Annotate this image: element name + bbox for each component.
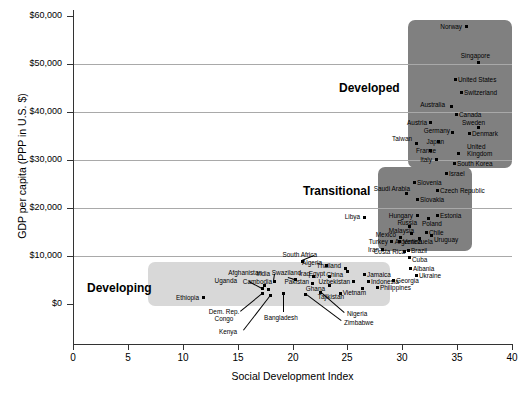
y-axis-title: GDP per capita (PPP in U.S. $): [16, 46, 28, 286]
point-label: Hungary: [389, 212, 413, 219]
point-label: Sweden: [462, 119, 485, 126]
point-label: Uganda: [215, 277, 237, 284]
x-tick-label: 10: [163, 352, 203, 363]
point-label: United States: [458, 76, 496, 83]
data-point: [269, 294, 272, 297]
data-point: [346, 270, 349, 273]
point-label: Denmark: [472, 130, 498, 137]
x-tick-label: 20: [273, 352, 313, 363]
point-label: Czech Republic: [440, 187, 485, 194]
point-label: Philippines: [380, 284, 411, 291]
data-point: [429, 121, 432, 124]
point-label: Canada: [459, 111, 481, 118]
y-tick-label-wrap: $30,000: [0, 155, 66, 164]
point-label: China: [326, 271, 343, 278]
point-label: Mexico: [376, 231, 396, 238]
gridline: [73, 64, 512, 65]
point-label: Taiwan: [392, 135, 412, 142]
data-point: [376, 286, 379, 289]
y-tick-label: $0: [0, 299, 66, 308]
data-point: [413, 181, 416, 184]
data-point: [454, 78, 457, 81]
data-point: [267, 288, 270, 291]
data-point: [367, 280, 370, 283]
y-tick-label-wrap: $40,000: [0, 107, 66, 116]
data-point: [363, 273, 366, 276]
point-label: South Africa: [283, 251, 317, 258]
point-label: Albania: [413, 265, 434, 272]
point-label: Tajikistan: [318, 293, 344, 300]
data-point: [435, 158, 438, 161]
x-tick-mark: [238, 344, 239, 350]
point-label: Russia: [397, 219, 417, 226]
x-tick-label: 15: [218, 352, 258, 363]
point-label: Brazil: [411, 247, 427, 254]
y-tick-mark: [67, 160, 74, 161]
data-point: [445, 172, 448, 175]
y-tick-label-wrap: $50,000: [0, 59, 66, 68]
point-label: Ethiopia: [176, 294, 199, 301]
y-tick-label-wrap: $0: [0, 299, 66, 308]
x-tick-mark: [183, 344, 184, 350]
point-label: Chile: [429, 229, 444, 236]
y-tick-label-wrap: $60,000: [0, 11, 66, 20]
data-point: [425, 231, 428, 234]
x-tick-mark: [293, 344, 294, 350]
point-label: Swaziland: [272, 269, 301, 276]
point-label: France: [416, 147, 436, 154]
point-label: Estonia: [440, 212, 461, 219]
point-label: Uruguay: [434, 236, 458, 243]
y-tick-mark: [67, 256, 74, 257]
y-tick-label: $20,000: [0, 203, 66, 212]
point-label: Switzerland: [464, 89, 497, 96]
data-point: [363, 216, 366, 219]
x-tick-mark: [347, 344, 348, 350]
cluster-label-transitional: Transitional: [303, 184, 370, 198]
point-label: Ukraine: [419, 272, 441, 279]
x-tick-label: 30: [382, 352, 422, 363]
data-point: [202, 296, 205, 299]
x-tick-mark: [457, 344, 458, 350]
gridline: [73, 160, 512, 161]
data-point: [477, 61, 480, 64]
point-label: Costa Rica: [374, 248, 405, 255]
data-point: [451, 131, 454, 134]
y-tick-mark: [67, 208, 74, 209]
leader-line: [283, 293, 284, 312]
point-label: Australia: [420, 101, 445, 108]
point-label: Slovakia: [420, 196, 444, 203]
point-label: Zimbabwe: [344, 319, 373, 326]
x-tick-label: 40: [492, 352, 522, 363]
data-point: [352, 280, 355, 283]
point-label: Afghanistan: [228, 269, 262, 276]
point-label: Vietnam: [343, 289, 366, 296]
x-tick-label: 0: [53, 352, 93, 363]
data-point: [390, 240, 393, 243]
point-label: Bangladesh: [264, 314, 298, 321]
point-label: Jamaica: [367, 271, 391, 278]
point-label: Slovenia: [417, 179, 442, 186]
point-label: Turkey: [369, 238, 388, 245]
y-tick-mark: [67, 64, 74, 65]
y-tick-label: $60,000: [0, 11, 66, 20]
point-label: Japan: [427, 138, 444, 145]
data-point: [465, 25, 468, 28]
x-tick-mark: [512, 344, 513, 350]
y-tick-mark: [67, 304, 74, 305]
y-tick-label: $10,000: [0, 251, 66, 260]
point-label: Egypt: [309, 270, 325, 277]
point-label: Dem. Rep.: [209, 308, 240, 315]
data-point: [304, 293, 307, 296]
point-label: United: [467, 143, 485, 150]
data-point: [416, 198, 419, 201]
data-point: [477, 126, 480, 129]
data-point: [457, 152, 460, 155]
point-label: Uzbekistan: [318, 278, 350, 285]
y-tick-label: $50,000: [0, 59, 66, 68]
data-point: [273, 280, 276, 283]
data-point: [261, 287, 264, 290]
point-label: Israel: [449, 170, 465, 177]
point-label: South Korea: [457, 160, 493, 167]
point-label: Georgia: [396, 277, 419, 284]
